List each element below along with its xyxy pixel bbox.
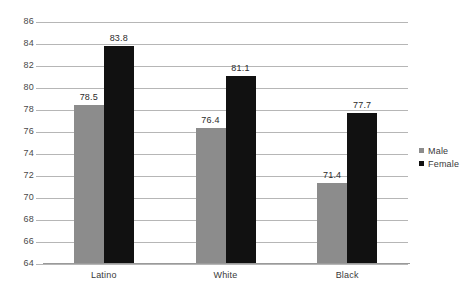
- y-axis-tick-label: 78: [0, 104, 34, 114]
- x-axis-label-latino: Latino: [43, 270, 165, 280]
- legend-label-male: Male: [428, 146, 448, 156]
- bar-value-label: 81.1: [219, 63, 263, 73]
- y-axis-tick-label: 64: [0, 258, 34, 268]
- y-axis-tick-mark: [36, 88, 43, 89]
- y-axis-tick-label: 84: [0, 38, 34, 48]
- y-axis-tick-mark: [36, 66, 43, 67]
- y-axis-tick-mark: [36, 242, 43, 243]
- bar-value-label: 77.7: [340, 100, 384, 110]
- y-axis-tick-mark: [36, 198, 43, 199]
- x-axis-label-white: White: [165, 270, 287, 280]
- bar-latino-male[interactable]: [74, 105, 104, 265]
- y-axis-tick-mark: [36, 154, 43, 155]
- bar-value-label: 83.8: [97, 33, 141, 43]
- y-axis-tick-label: 82: [0, 60, 34, 70]
- gridline: [43, 22, 408, 23]
- bar-chart: 78.583.876.481.171.477.7 868482807876747…: [0, 0, 466, 293]
- y-axis-tick-mark: [36, 132, 43, 133]
- y-axis-tick-label: 74: [0, 148, 34, 158]
- gridline: [43, 264, 408, 265]
- y-axis-tick-label: 68: [0, 214, 34, 224]
- x-axis-line: [43, 263, 410, 264]
- legend-item-male[interactable]: Male: [419, 144, 459, 157]
- male-swatch-icon: [419, 148, 424, 153]
- y-axis-tick-mark: [36, 110, 43, 111]
- y-axis-tick-mark: [36, 264, 43, 265]
- bar-white-male[interactable]: [196, 128, 226, 264]
- legend: Male Female: [419, 144, 459, 170]
- bar-latino-female[interactable]: [104, 46, 134, 264]
- legend-label-female: Female: [428, 159, 459, 169]
- y-axis-tick-mark: [36, 220, 43, 221]
- bar-black-male[interactable]: [317, 183, 347, 264]
- y-axis-tick-mark: [36, 22, 43, 23]
- y-axis-tick-label: 80: [0, 82, 34, 92]
- y-axis-tick-label: 66: [0, 236, 34, 246]
- bar-black-female[interactable]: [347, 113, 377, 264]
- y-axis-tick-label: 70: [0, 192, 34, 202]
- y-axis-tick-label: 72: [0, 170, 34, 180]
- y-axis-tick-mark: [36, 44, 43, 45]
- x-axis-label-black: Black: [286, 270, 408, 280]
- gridline: [43, 44, 408, 45]
- y-axis-tick-label: 86: [0, 16, 34, 26]
- bar-white-female[interactable]: [226, 76, 256, 264]
- female-swatch-icon: [419, 161, 424, 166]
- legend-item-female[interactable]: Female: [419, 157, 459, 170]
- y-axis-tick-label: 76: [0, 126, 34, 136]
- y-axis-tick-mark: [36, 176, 43, 177]
- plot-area: 78.583.876.481.171.477.7: [43, 22, 408, 264]
